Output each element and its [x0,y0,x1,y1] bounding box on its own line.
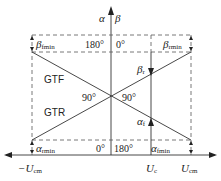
uc-line [148,52,154,155]
beta-axis-label: β [114,12,121,24]
neg-ucm-label: −Ucm [18,162,42,175]
beta-r-label: βr [136,63,145,76]
limit-arrows [30,36,193,154]
beta-fmin-label: βfmin [35,38,55,51]
alpha-f-label: αf [137,115,146,128]
right-arrow-icon [209,152,217,158]
angle-top-left: 180° [85,39,104,50]
beta-rmin-label: βrmin [162,38,182,51]
ucm-label: Ucm [181,162,198,175]
dashed-limits [32,35,191,155]
angle-top-right: 0° [116,39,125,50]
region-gtf-label: GTF [44,74,64,85]
characteristic-lines [32,52,191,140]
vertical-axis [108,6,114,155]
alpha-fmin-label: αfmin [151,142,171,155]
alpha-rmin-label: αrmin [36,142,56,155]
angle-bottom-left: 0° [96,143,105,154]
up-arrow-icon [108,6,114,15]
angle-bottom-right: 180° [114,143,133,154]
alpha-axis-label: α [99,12,105,24]
angle-mid-left: 90° [82,92,96,103]
angle-mid-right: 90° [122,92,136,103]
control-characteristic-diagram: α β 180° 0° 90° 90° 0° 180° GTF GTR βfmi… [0,0,221,181]
left-arrow-icon [4,152,12,158]
region-gtr-label: GTR [44,107,65,118]
uc-label: Uc [146,162,157,175]
